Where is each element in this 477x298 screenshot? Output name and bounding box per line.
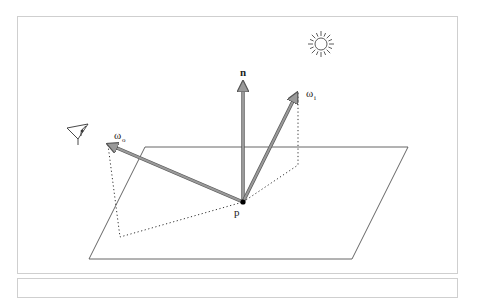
eye-icon <box>67 124 88 145</box>
outgoing-projection <box>108 145 243 237</box>
surface-plane <box>89 147 408 259</box>
outgoing-arrow <box>110 145 243 202</box>
point-label: p <box>234 206 240 218</box>
surface-point <box>240 199 245 204</box>
outgoing-label-sub: o <box>122 136 126 144</box>
incident-label-sub: i <box>314 94 316 102</box>
outgoing-label: ω <box>114 129 121 141</box>
sun-icon <box>308 31 334 57</box>
incident-arrow <box>243 95 296 202</box>
normal-label: n <box>240 66 246 78</box>
incident-label: ω <box>306 87 313 99</box>
